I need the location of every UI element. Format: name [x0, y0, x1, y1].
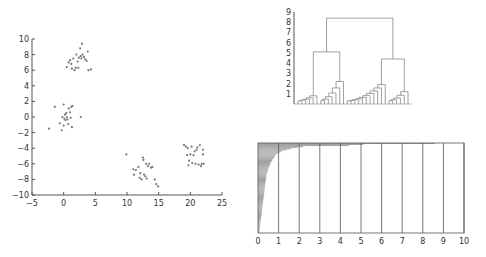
bar	[258, 210, 262, 211]
bar	[258, 148, 291, 149]
data-point	[66, 116, 68, 118]
bar	[258, 203, 263, 204]
data-point	[75, 54, 77, 56]
dendrogram-link	[298, 101, 302, 104]
data-point	[139, 177, 141, 179]
y-tick-label: 6	[24, 66, 29, 75]
data-point	[66, 66, 68, 68]
data-point	[81, 43, 83, 45]
data-point	[77, 67, 79, 69]
data-point	[65, 112, 67, 114]
y-tick-label: 3	[286, 69, 291, 78]
data-point	[132, 168, 134, 170]
bar	[258, 186, 265, 187]
bar	[258, 189, 265, 190]
data-point	[147, 165, 149, 167]
x-tick-label: 1	[276, 237, 281, 246]
data-point	[54, 106, 56, 108]
data-point	[142, 156, 144, 158]
data-point	[191, 162, 193, 164]
data-point	[188, 160, 190, 162]
bar	[258, 185, 265, 186]
bar	[258, 179, 266, 180]
dendrogram-plot: 123456789	[280, 0, 420, 115]
data-point	[80, 55, 82, 57]
bar	[258, 214, 262, 215]
data-point	[70, 63, 72, 65]
data-point	[69, 59, 71, 61]
x-tick-label: 2	[297, 237, 302, 246]
data-point	[187, 164, 189, 166]
bar	[258, 219, 261, 220]
data-point	[199, 144, 201, 146]
data-point	[78, 57, 80, 59]
data-point	[48, 128, 50, 130]
y-tick-label: 5	[286, 49, 291, 58]
bar	[258, 207, 262, 208]
data-point	[135, 169, 137, 171]
bar	[258, 215, 261, 216]
bar	[258, 176, 266, 177]
dendrogram-link	[347, 101, 351, 104]
data-point	[71, 105, 73, 107]
bar	[258, 204, 263, 205]
bar	[258, 178, 266, 179]
bar	[258, 197, 264, 198]
data-point	[139, 172, 141, 174]
data-point	[68, 107, 70, 109]
data-point	[75, 67, 77, 69]
dendrogram-link	[327, 18, 393, 59]
x-tick-label: 25	[217, 199, 227, 208]
data-point	[125, 153, 127, 155]
data-point	[71, 68, 73, 70]
bar	[258, 166, 269, 167]
bar	[258, 198, 263, 199]
data-point	[82, 54, 84, 56]
dendrogram-link	[313, 52, 339, 96]
x-tick-label: 9	[441, 237, 446, 246]
y-tick-label: 1	[286, 90, 291, 99]
bar	[258, 156, 274, 157]
bar	[258, 159, 272, 160]
y-tick-label: 2	[24, 97, 29, 106]
data-point	[151, 166, 153, 168]
bar	[258, 191, 264, 192]
data-point	[201, 163, 203, 165]
data-point	[194, 150, 196, 152]
y-tick-label: 7	[286, 28, 291, 37]
bar	[258, 154, 277, 155]
dendrogram-link	[321, 101, 325, 104]
data-point	[63, 124, 65, 126]
data-point	[68, 61, 70, 63]
bar	[258, 182, 265, 183]
bar	[258, 155, 276, 156]
data-point	[202, 149, 204, 151]
bar	[258, 218, 261, 219]
data-point	[87, 69, 89, 71]
x-tick-label: 20	[185, 199, 195, 208]
data-point	[197, 163, 199, 165]
data-point	[59, 122, 61, 124]
x-tick-label: 0	[61, 199, 66, 208]
bar	[258, 149, 287, 150]
data-point	[70, 117, 72, 119]
x-tick-label: 10	[459, 237, 469, 246]
data-point	[200, 165, 202, 167]
bar	[258, 217, 261, 218]
x-tick-label: 0	[255, 237, 260, 246]
y-tick-label: 4	[24, 82, 29, 91]
data-point	[145, 163, 147, 165]
data-point	[80, 116, 82, 118]
y-tick-label: −4	[17, 144, 29, 153]
data-point	[196, 149, 198, 151]
bar	[258, 195, 264, 196]
dendrogram-link	[394, 98, 401, 104]
bar	[258, 175, 266, 176]
bar	[258, 169, 268, 170]
bar	[258, 193, 264, 194]
bar	[258, 162, 270, 163]
data-point	[77, 61, 79, 63]
data-point	[192, 154, 194, 156]
dendrogram-link	[326, 97, 333, 104]
data-point	[61, 129, 63, 131]
